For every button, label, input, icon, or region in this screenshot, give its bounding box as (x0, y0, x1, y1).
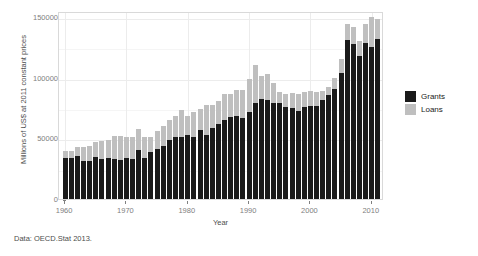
x-tick-mark (248, 201, 249, 204)
bar-segment-loans (345, 24, 350, 40)
bar-segment-loans (191, 112, 196, 136)
bar-segment-grants (179, 137, 184, 199)
legend-swatch-icon (405, 104, 416, 115)
bar-segment-grants (308, 106, 313, 199)
bar-2002 (320, 91, 325, 199)
x-tick-mark (64, 201, 65, 204)
bar-1984 (210, 105, 215, 199)
bar-segment-loans (247, 79, 252, 112)
bar-segment-loans (277, 92, 282, 102)
bar-1999 (302, 92, 307, 199)
bar-segment-grants (167, 140, 172, 199)
bar-segment-grants (124, 158, 129, 199)
bar-segment-loans (112, 136, 117, 159)
bar-2009 (363, 24, 368, 199)
bar-segment-loans (130, 137, 135, 159)
bar-segment-loans (167, 120, 172, 141)
x-tick-mark (309, 201, 310, 204)
bar-segment-loans (148, 137, 153, 153)
bar-1977 (167, 120, 172, 199)
bar-segment-loans (106, 140, 111, 159)
bar-segment-grants (118, 160, 123, 199)
bar-segment-loans (63, 151, 68, 158)
bar-segment-grants (296, 111, 301, 199)
bar-1993 (265, 74, 270, 199)
bar-segment-grants (228, 117, 233, 199)
bar-2004 (332, 78, 337, 199)
x-tick-label: 1960 (44, 206, 84, 215)
bar-1997 (290, 93, 295, 199)
bar-segment-loans (302, 92, 307, 108)
bar-1978 (173, 116, 178, 199)
bar-segment-loans (87, 146, 92, 162)
bar-segment-grants (87, 161, 92, 199)
bar-segment-grants (357, 56, 362, 199)
bar-segment-grants (93, 157, 98, 199)
bar-segment-loans (228, 94, 233, 118)
bar-1960 (63, 151, 68, 199)
bar-segment-grants (375, 39, 380, 199)
legend-item-loans: Loans (405, 103, 475, 116)
x-tick-mark (125, 201, 126, 204)
bar-1964 (87, 146, 92, 199)
bar-segment-grants (234, 116, 239, 199)
bar-segment-loans (185, 116, 190, 135)
bar-segment-loans (265, 74, 270, 99)
plot-panel (58, 12, 383, 200)
bar-2001 (314, 92, 319, 199)
bar-segment-loans (320, 91, 325, 100)
bar-segment-loans (332, 78, 337, 89)
bar-1973 (142, 137, 147, 199)
bar-segment-grants (155, 149, 160, 199)
bar-segment-grants (142, 158, 147, 199)
bar-segment-grants (75, 156, 80, 199)
legend-label: Grants (421, 92, 445, 101)
bar-segment-loans (198, 109, 203, 131)
bar-1990 (247, 79, 252, 199)
bar-segment-grants (136, 150, 141, 199)
bar-segment-grants (240, 118, 245, 199)
bar-segment-grants (271, 103, 276, 199)
x-tick-label: 1990 (228, 206, 268, 215)
bar-1995 (277, 92, 282, 199)
bar-1985 (216, 101, 221, 199)
x-tick-mark (187, 201, 188, 204)
bar-segment-grants (332, 89, 337, 199)
bar-segment-loans (296, 94, 301, 112)
bar-1971 (130, 137, 135, 199)
bar-segment-grants (259, 99, 264, 199)
bar-1967 (106, 140, 111, 199)
bar-segment-grants (198, 130, 203, 199)
bar-segment-grants (363, 43, 368, 199)
bar-segment-grants (173, 137, 178, 199)
bar-segment-loans (179, 110, 184, 137)
bar-segment-grants (351, 44, 356, 199)
bar-segment-loans (240, 90, 245, 119)
bar-segment-loans (369, 17, 374, 47)
bar-segment-loans (308, 91, 313, 106)
legend-item-grants: Grants (405, 90, 475, 103)
bar-segment-loans (290, 93, 295, 108)
bar-segment-loans (69, 151, 74, 158)
bar-2003 (326, 87, 331, 199)
bar-1963 (81, 147, 86, 199)
bar-segment-loans (118, 136, 123, 160)
legend-label: Loans (421, 105, 443, 114)
bar-segment-loans (136, 129, 141, 150)
bar-segment-grants (161, 146, 166, 199)
bar-segment-grants (112, 159, 117, 199)
bar-segment-loans (204, 105, 209, 135)
bar-1969 (118, 136, 123, 199)
y-tick-label: 0 (16, 196, 58, 204)
bar-segment-grants (191, 137, 196, 199)
bar-segment-grants (247, 112, 252, 199)
bar-segment-loans (142, 137, 147, 158)
bar-2007 (351, 27, 356, 199)
bar-segment-loans (222, 94, 227, 120)
bar-segment-grants (320, 100, 325, 199)
bar-segment-grants (216, 124, 221, 199)
bar-segment-loans (357, 41, 362, 57)
chart-caption: Data: OECD.Stat 2013. (14, 234, 92, 243)
bar-segment-grants (106, 158, 111, 199)
bar-segment-loans (351, 27, 356, 43)
